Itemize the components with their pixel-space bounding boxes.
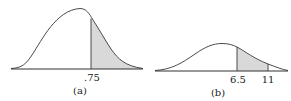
panel-b-shaded-area xyxy=(237,47,268,71)
panel-b-caption: (b) xyxy=(211,88,225,98)
panel-a-tick-label: .75 xyxy=(84,73,100,83)
panel-b-tick-label-left: 6.5 xyxy=(230,75,246,85)
panel-a-bell-curve xyxy=(11,9,143,69)
panel-a xyxy=(11,9,143,70)
panel-a-caption: (a) xyxy=(73,86,87,96)
panel-a-shaded-area xyxy=(91,19,143,70)
normal-curves-figure: .75 (a) 6.5 11 (b) xyxy=(0,0,291,101)
panel-b xyxy=(155,44,288,72)
panel-b-tick-label-right: 11 xyxy=(262,75,275,85)
curves-svg xyxy=(0,0,291,101)
